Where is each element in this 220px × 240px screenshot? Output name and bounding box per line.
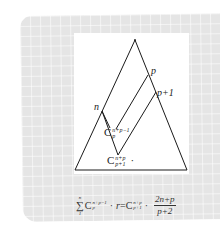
line-lower-to-p1 <box>118 92 156 155</box>
combination-outer: Cn+pp+1· <box>107 155 134 167</box>
label-p: p <box>151 66 156 76</box>
summation-formula: n ∑ 1 C n+p−1 p · r = C n+p p+1 · 2n+p p… <box>76 192 188 218</box>
line-p-to-inner <box>116 75 148 129</box>
label-n: n <box>94 102 99 112</box>
fraction: 2n+p p+2 <box>154 194 176 217</box>
apex-point <box>134 39 136 41</box>
term-indices: n+p−1 p <box>93 200 107 210</box>
combination-inner: Cn+p−1p <box>104 127 129 139</box>
label-p-plus-1: p+1 <box>157 88 174 98</box>
outer-triangle <box>75 40 187 170</box>
sigma-sum: n ∑ 1 <box>76 195 84 216</box>
rhs-indices: n+p p+1 <box>133 200 141 210</box>
